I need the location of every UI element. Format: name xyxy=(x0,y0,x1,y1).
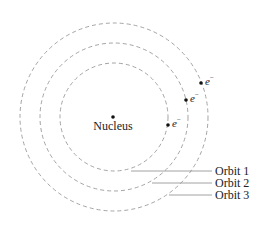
electron-orbit-2-label: e− xyxy=(190,91,199,104)
nucleus-label: Nucleus xyxy=(93,119,133,133)
atom-diagram: Nucleus e− e− e− Orbit 1 Orbit 2 Orbit 3 xyxy=(0,0,267,227)
electron-orbit-1-dot xyxy=(166,123,170,127)
electron-orbit-3-label: e− xyxy=(205,74,214,87)
electron-orbit-3-dot xyxy=(199,81,203,85)
electron-orbit-1-label: e− xyxy=(172,116,181,129)
electron-orbit-2-dot xyxy=(184,98,188,102)
orbit-3-label: Orbit 3 xyxy=(215,188,249,202)
